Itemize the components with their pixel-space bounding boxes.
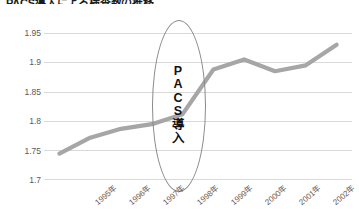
y-axis-tick-label: 1.85: [1, 87, 41, 97]
x-axis-tick-label: 2001年: [296, 182, 323, 207]
x-axis-tick-label: 1999年: [228, 182, 255, 207]
x-axis-ticks: 1995年 1996年 1997年 1998年 1999年 2000年 2001…: [44, 182, 352, 218]
annotation-char: 導: [172, 119, 185, 133]
annotation-char: P: [174, 65, 182, 79]
y-axis-tick-label: 1.7: [1, 175, 41, 185]
x-axis-tick-label: 1998年: [194, 182, 221, 207]
chart-screenshot: PACS導入による検査数の推移 1.95 1.9 1.85 1.8 1.75 1…: [0, 0, 359, 218]
annotation-char: 入: [172, 132, 185, 146]
x-axis-tick-label: 1997年: [160, 182, 187, 207]
y-axis-tick-label: 1.95: [1, 28, 41, 38]
chart-title: PACS導入による検査数の推移: [6, 0, 154, 4]
x-axis-tick-label: 2002年: [330, 182, 357, 207]
annotation-char: C: [173, 92, 182, 106]
y-axis-ticks: 1.95 1.9 1.85 1.8 1.75 1.7: [0, 33, 41, 180]
annotation-char: S: [174, 105, 182, 119]
y-axis-tick-label: 1.8: [1, 116, 41, 126]
y-axis-tick-label: 1.75: [1, 146, 41, 156]
annotation-label: P A C S 導 入: [152, 20, 204, 190]
x-axis-tick-label: 2000年: [262, 182, 289, 207]
plot-area: P A C S 導 入: [44, 33, 352, 180]
annotation-char: A: [173, 78, 182, 92]
y-axis-tick-label: 1.9: [1, 57, 41, 67]
x-axis-tick-label: 1996年: [126, 182, 153, 207]
x-axis-tick-label: 1995年: [92, 182, 119, 207]
